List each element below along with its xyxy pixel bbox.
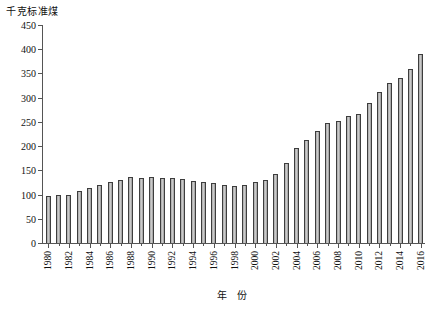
- y-tick-label: 400: [21, 44, 36, 55]
- x-tick-label: 1984: [85, 251, 95, 270]
- bar: [304, 140, 309, 243]
- x-tick-mark: [162, 243, 163, 246]
- bar: [263, 180, 268, 243]
- bar: [346, 116, 351, 243]
- x-tick-mark: [348, 243, 349, 246]
- x-tick-label: 1994: [188, 251, 198, 270]
- x-tick-label: 2000: [250, 251, 260, 270]
- bar: [273, 174, 278, 243]
- x-tick-mark: [390, 243, 391, 246]
- x-tick-mark: [152, 243, 153, 248]
- x-tick-mark: [307, 243, 308, 246]
- bar: [170, 178, 175, 243]
- y-axis-title: 千克标准煤: [6, 3, 59, 18]
- bar: [387, 83, 392, 243]
- x-tick-label: 2002: [271, 251, 281, 270]
- x-tick-label: 2004: [292, 251, 302, 270]
- y-tick-mark: [38, 243, 42, 244]
- x-tick-mark: [235, 243, 236, 248]
- y-tick-label: 350: [21, 68, 36, 79]
- x-tick-mark: [172, 243, 173, 248]
- bar: [408, 69, 413, 243]
- x-tick-mark: [100, 243, 101, 246]
- bar: [97, 185, 102, 243]
- bar: [356, 114, 361, 243]
- bar: [242, 185, 247, 243]
- x-tick-mark: [286, 243, 287, 246]
- x-tick-label: 2014: [395, 251, 405, 270]
- bar: [284, 163, 289, 243]
- bar: [77, 191, 82, 243]
- bar: [160, 178, 165, 243]
- x-tick-mark: [48, 243, 49, 248]
- x-tick-mark: [297, 243, 298, 248]
- y-tick-label: 0: [31, 238, 36, 249]
- x-tick-mark: [79, 243, 80, 246]
- y-tick-label: 300: [21, 92, 36, 103]
- x-tick-mark: [369, 243, 370, 246]
- x-tick-mark: [59, 243, 60, 246]
- x-tick-mark: [203, 243, 204, 246]
- x-tick-mark: [245, 243, 246, 246]
- bar: [191, 181, 196, 243]
- y-tick-label: 250: [21, 116, 36, 127]
- x-tick-mark: [317, 243, 318, 248]
- bar: [56, 195, 61, 243]
- x-tick-label: 2008: [333, 251, 343, 270]
- bar: [294, 148, 299, 243]
- x-tick-label: 1986: [105, 251, 115, 270]
- x-tick-mark: [379, 243, 380, 248]
- bar: [149, 177, 154, 243]
- x-tick-mark: [110, 243, 111, 248]
- bar: [336, 121, 341, 243]
- bar-series: [42, 25, 425, 243]
- y-tick-label: 50: [26, 213, 36, 224]
- x-tick-mark: [131, 243, 132, 248]
- x-tick-label: 1992: [167, 251, 177, 270]
- chart-canvas: 千克标准煤 050100150200250300350400450 198019…: [0, 0, 441, 313]
- x-tick-mark: [224, 243, 225, 246]
- x-tick-label: 2016: [416, 251, 426, 270]
- x-tick-mark: [338, 243, 339, 248]
- x-axis-title: 年 份: [42, 287, 425, 302]
- bar: [325, 123, 330, 243]
- y-tick-label: 450: [21, 20, 36, 31]
- bar: [139, 178, 144, 243]
- bar: [232, 186, 237, 243]
- x-tick-mark: [410, 243, 411, 246]
- x-tick-mark: [69, 243, 70, 248]
- bar: [46, 196, 51, 243]
- bar: [398, 78, 403, 243]
- x-tick-mark: [266, 243, 267, 246]
- bar: [201, 182, 206, 243]
- x-tick-label: 1982: [64, 251, 74, 270]
- x-tick-label: 2006: [312, 251, 322, 270]
- bar: [118, 180, 123, 243]
- x-tick-label: 1990: [147, 251, 157, 270]
- x-tick-label: 1998: [230, 251, 240, 270]
- y-tick-label: 200: [21, 141, 36, 152]
- plot-area: 050100150200250300350400450 198019821984…: [42, 25, 425, 243]
- bar: [418, 54, 423, 243]
- x-tick-label: 2012: [374, 251, 384, 270]
- bar: [128, 177, 133, 243]
- bar: [315, 131, 320, 243]
- x-tick-mark: [214, 243, 215, 248]
- x-tick-mark: [141, 243, 142, 246]
- x-tick-mark: [183, 243, 184, 246]
- bar: [222, 185, 227, 243]
- x-tick-label: 1996: [209, 251, 219, 270]
- bar: [367, 103, 372, 243]
- x-tick-mark: [421, 243, 422, 248]
- x-tick-mark: [400, 243, 401, 248]
- bar: [253, 182, 258, 243]
- x-tick-mark: [193, 243, 194, 248]
- x-tick-label: 1980: [43, 251, 53, 270]
- bar: [180, 179, 185, 243]
- x-tick-mark: [276, 243, 277, 248]
- x-tick-mark: [328, 243, 329, 246]
- bar: [377, 92, 382, 243]
- bar: [87, 188, 92, 243]
- y-tick-label: 150: [21, 165, 36, 176]
- bar: [66, 195, 71, 243]
